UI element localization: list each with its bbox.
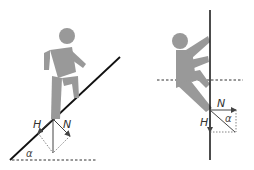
incline-dashed-edge-n [53,136,70,153]
wall-label-n: N [217,97,225,110]
incline-label-angle: α [26,148,33,159]
wall-label-h: H [200,116,208,129]
wall-label-angle: α [225,113,232,124]
diagram-canvas: H N α N H α [0,0,254,170]
wall-panel: N H α [157,10,243,160]
incline-dashed-edge-h [38,133,53,153]
walking-person-icon [44,28,86,119]
climbing-person-icon [172,33,212,112]
incline-panel: H N α [10,28,120,160]
incline-label-h: H [33,118,41,131]
incline-label-n: N [63,118,71,131]
